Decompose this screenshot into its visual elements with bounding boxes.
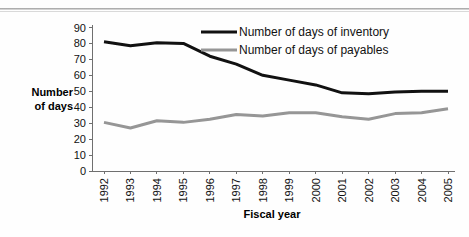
x-tick-label: 2005 <box>442 178 454 202</box>
y-tick-label: 10 <box>74 149 86 161</box>
chart-legend: Number of days of inventoryNumber of day… <box>201 25 389 57</box>
x-tick-label: 1992 <box>98 178 110 202</box>
y-axis-title-line-2: of days <box>34 100 73 112</box>
y-tick-label: 40 <box>74 101 86 113</box>
x-tick-label: 2002 <box>363 178 375 202</box>
x-tick-label: 1994 <box>151 178 163 202</box>
x-axis-title: Fiscal year <box>244 208 302 220</box>
x-tick-label: 1998 <box>257 178 269 202</box>
legend-label-payables: Number of days of payables <box>239 43 388 57</box>
chart-plot-area: 0102030405060708090 19921993199419951996… <box>0 0 469 237</box>
y-tick-label: 70 <box>74 53 86 65</box>
legend-label-inventory: Number of days of inventory <box>239 25 389 39</box>
y-tick-label: 0 <box>80 165 86 177</box>
y-tick-label: 50 <box>74 85 86 97</box>
x-tick-label: 2003 <box>389 178 401 202</box>
x-axis: 1992199319941995199619971998199920002001… <box>92 171 455 202</box>
x-tick-label: 1995 <box>177 178 189 202</box>
x-tick-label: 2000 <box>310 178 322 202</box>
fiscal-year-line-chart: 0102030405060708090 19921993199419951996… <box>0 0 469 237</box>
y-tick-label: 90 <box>74 22 86 34</box>
y-tick-label: 20 <box>74 133 86 145</box>
x-tick-label: 1996 <box>204 178 216 202</box>
x-tick-label: 1997 <box>230 178 242 202</box>
x-tick-label: 2004 <box>416 178 428 202</box>
x-tick-label: 2001 <box>336 178 348 202</box>
y-tick-label: 30 <box>74 117 86 129</box>
x-tick-label: 1993 <box>124 178 136 202</box>
x-tick-label: 1999 <box>283 178 295 202</box>
y-tick-label: 60 <box>74 69 86 81</box>
series-line-payables <box>104 109 448 128</box>
y-tick-label: 80 <box>74 37 86 49</box>
y-axis: 0102030405060708090 <box>74 22 92 178</box>
y-axis-title-line-1: Number <box>31 86 73 98</box>
